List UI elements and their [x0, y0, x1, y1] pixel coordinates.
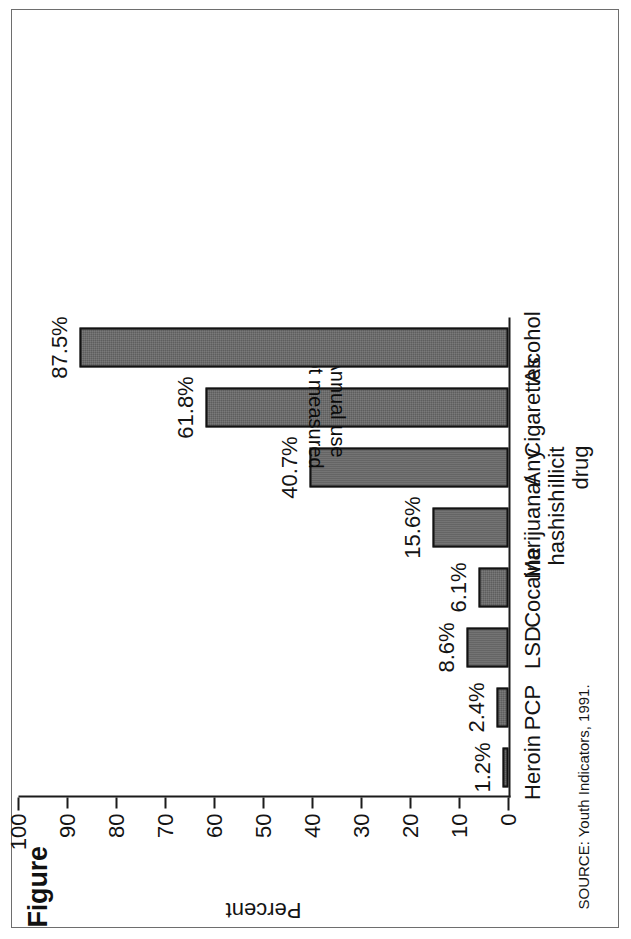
value-axis-tick-label: 100 — [5, 813, 31, 850]
source-note: SOURCE: Youth Indicators, 1991. — [574, 684, 591, 909]
bar — [478, 567, 508, 607]
chart-title: Figure — [22, 846, 53, 927]
value-axis-tick — [311, 797, 313, 808]
bar — [496, 687, 508, 727]
value-axis-tick — [213, 797, 215, 808]
value-axis-tick — [458, 797, 460, 808]
category-label: LSD — [520, 626, 544, 669]
bar-chart-figure: Figure Percent 0102030405060708090100 1.… — [18, 12, 613, 927]
value-axis-title: Percent — [225, 896, 301, 922]
category-label: Alcohol — [520, 311, 544, 383]
bar — [466, 627, 508, 667]
bar-value-label: 2.4% — [463, 682, 489, 732]
bar-value-label: 87.5% — [46, 316, 72, 378]
bar-value-label: 61.8% — [172, 376, 198, 438]
bar — [79, 327, 508, 367]
value-axis-tick-label: 30 — [348, 813, 374, 837]
bar-value-label: 8.6% — [433, 622, 459, 672]
value-axis-tick-label: 0 — [495, 813, 521, 825]
bar-value-label: 15.6% — [399, 496, 425, 558]
bar — [502, 747, 508, 787]
value-axis-tick — [360, 797, 362, 808]
value-axis-tick-label: 70 — [152, 813, 178, 837]
value-axis-tick — [115, 797, 117, 808]
value-axis-tick — [17, 797, 19, 810]
value-axis-tick — [507, 797, 509, 810]
bar-value-label: 6.1% — [445, 562, 471, 612]
rotated-figure-stage: Figure Percent 0102030405060708090100 1.… — [18, 12, 613, 927]
category-label: Marijuana/hashish — [520, 476, 568, 579]
bar — [205, 387, 508, 427]
value-axis-tick-label: 90 — [54, 813, 80, 837]
bar-value-label: 40.7% — [276, 436, 302, 498]
value-axis-tick-label: 10 — [446, 813, 472, 837]
bar — [432, 507, 508, 547]
value-axis-tick — [409, 797, 411, 808]
category-label: Heroin — [520, 735, 544, 800]
bar-value-label: 1.2% — [469, 742, 495, 792]
value-axis-tick — [262, 797, 264, 808]
value-axis-tick-label: 40 — [299, 813, 325, 837]
category-label: PCP — [520, 684, 544, 729]
value-axis-tick-label: 60 — [201, 813, 227, 837]
value-axis-tick-label: 80 — [103, 813, 129, 837]
value-axis-tick-label: 50 — [250, 813, 276, 837]
value-axis-tick — [66, 797, 68, 808]
scanned-page: Figure Percent 0102030405060708090100 1.… — [0, 0, 631, 939]
value-axis-tick-label: 20 — [397, 813, 423, 837]
value-axis-tick — [164, 797, 166, 808]
plot-area: Percent 0102030405060708090100 1.2%2.4%8… — [18, 237, 518, 797]
